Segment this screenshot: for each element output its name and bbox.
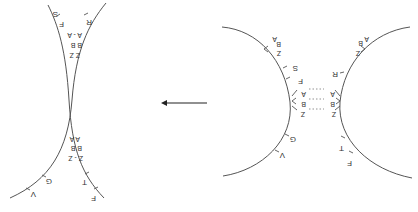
- lower-row3: Z - Z: [68, 155, 83, 162]
- label-A: A: [364, 36, 369, 43]
- after-diagram: S F R A - A B B Z Z A A B B Z - Z G V T …: [10, 3, 106, 203]
- tick-V: [275, 150, 279, 152]
- lower-row2: B B: [70, 145, 82, 152]
- label-V: V: [279, 151, 285, 160]
- before-diagram: A B Z S F G V A B Z R T F A B Z: [222, 27, 412, 178]
- after-label-S: S: [53, 10, 58, 19]
- label-S: S: [293, 64, 298, 73]
- after-curve-2: [10, 3, 106, 198]
- label-Z: Z: [355, 50, 360, 57]
- tick-F2: [349, 151, 353, 153]
- after-upper-junction: A - A B B Z Z: [67, 32, 82, 59]
- label-T: T: [339, 144, 344, 153]
- label-Z: Z: [276, 50, 281, 57]
- tick-T: [341, 136, 345, 138]
- lower-row1: A A: [69, 136, 80, 143]
- before-junction: A B Z A B Z: [292, 89, 340, 118]
- label-A: A: [272, 36, 277, 43]
- label-F: F: [347, 159, 352, 168]
- after-label-R: R: [86, 18, 92, 27]
- after-label-F: F: [91, 194, 96, 203]
- upper-row3: Z Z: [69, 52, 80, 59]
- transformation-arrow: [161, 100, 207, 106]
- left-junction-B: B: [301, 101, 306, 108]
- tick-R: [340, 72, 344, 73]
- label-F: F: [298, 77, 303, 86]
- tick-G: [285, 134, 289, 136]
- upper-row2: B B: [70, 42, 82, 49]
- after-label-V: V: [30, 190, 36, 199]
- tick-S: [283, 66, 287, 68]
- after-label-F: F: [59, 20, 64, 29]
- arrow-left-icon: [161, 100, 167, 106]
- upper-row1: A - A: [67, 32, 82, 39]
- before-right-arc: [340, 27, 412, 178]
- diagram-canvas: A B Z S F G V A B Z R T F A B Z: [0, 0, 418, 212]
- right-junction-Z: Z: [331, 111, 336, 118]
- after-label-T: T: [82, 178, 87, 187]
- label-B: B: [358, 40, 363, 47]
- before-left-arc-end-marker: A B Z: [264, 36, 281, 57]
- left-junction-A: A: [301, 91, 306, 98]
- right-junction-A: A: [330, 91, 335, 98]
- tick-F: [286, 77, 290, 79]
- left-junction-Z: Z: [300, 111, 305, 118]
- right-junction-B: B: [330, 101, 335, 108]
- after-label-G: G: [46, 177, 52, 186]
- label-G: G: [290, 135, 296, 144]
- label-B: B: [276, 41, 281, 48]
- after-lower-junction: A A B B Z - Z: [68, 136, 83, 162]
- label-R: R: [332, 70, 338, 79]
